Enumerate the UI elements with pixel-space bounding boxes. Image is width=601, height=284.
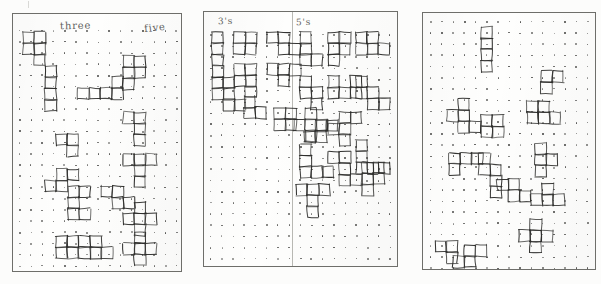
polyomino-S-pentomino (303, 119, 338, 143)
label-threes: 3's (218, 16, 233, 26)
polyomino-I-tetromino (44, 65, 57, 111)
polyomino-Y-pentomino (356, 32, 390, 56)
panel-right (422, 12, 596, 270)
polyomino-N-pentomino (478, 153, 502, 198)
polyomino-T-pentomino (530, 183, 565, 206)
polyomino-L-piece (243, 95, 266, 119)
polyomino-X-pentomino (518, 219, 553, 253)
polyomino-X-pentomino (293, 107, 328, 141)
polyomino-T-tetromino (56, 133, 79, 157)
polyomino-L-tetromino (122, 111, 146, 146)
polyomino-P-pentomino (361, 162, 385, 196)
label-fives: 5's (296, 17, 311, 27)
shapes-right (423, 13, 596, 270)
polyomino-P-pentomino (78, 236, 113, 260)
panel-left: three five (12, 13, 182, 272)
polyomino-Y-pentomino (67, 186, 91, 220)
scan-edge-tick (28, 1, 29, 8)
polyomino-L-pentomino (77, 76, 123, 100)
polyomino-P-pentomino (526, 100, 560, 124)
polyomino-O-square (233, 32, 257, 56)
shapes-middle (204, 12, 398, 267)
polyomino-I-tetromino (481, 26, 493, 72)
shapes-left (13, 14, 182, 272)
polyomino-L-pentomino (355, 140, 390, 175)
label-five: five (143, 21, 166, 34)
polyomino-T-pentomino (328, 32, 351, 67)
polyomino-O-square (274, 107, 298, 130)
polyomino-N-pentomino (299, 75, 323, 110)
polyomino-P-pentomino (122, 55, 146, 90)
label-three: three (60, 20, 91, 32)
polyomino-S-piece (266, 31, 301, 55)
polyomino-P-pentomino (22, 31, 46, 65)
polyomino-I-tromino (211, 32, 224, 66)
polyomino-W-pentomino (355, 76, 390, 111)
polyomino-T-pentomino (123, 153, 157, 188)
polyomino-L-tetromino (435, 241, 458, 264)
polyomino-T-piece (540, 70, 564, 94)
polyomino-S-pentomino (45, 168, 79, 192)
polyomino-X-pentomino (123, 232, 157, 266)
polyomino-P-pentomino (481, 114, 505, 138)
polyomino-Z-pentomino (101, 185, 136, 209)
polyomino-Z-piece (212, 87, 246, 111)
polyomino-V-pentomino (299, 144, 334, 178)
polyomino-Y-pentomino (534, 142, 557, 177)
polyomino-F-pentomino (447, 98, 482, 133)
polyomino-T-pentomino (296, 184, 331, 218)
polyomino-L-pentomino (299, 31, 323, 66)
scanned-page: three five 3's 5's (0, 0, 601, 284)
polyomino-O-tetromino (55, 235, 79, 259)
polyomino-X-pentomino (123, 201, 157, 236)
panel-middle: 3's 5's (203, 11, 398, 267)
polyomino-T-piece (267, 63, 302, 87)
polyomino-L-tromino (211, 65, 235, 89)
polyomino-P-piece (234, 63, 257, 97)
